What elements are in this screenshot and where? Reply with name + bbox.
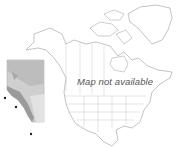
alberta-inset	[7, 60, 44, 122]
north-america-map	[0, 0, 178, 148]
map-not-available-message: Map not available	[77, 76, 153, 87]
map-figure: Map not available	[0, 0, 178, 148]
